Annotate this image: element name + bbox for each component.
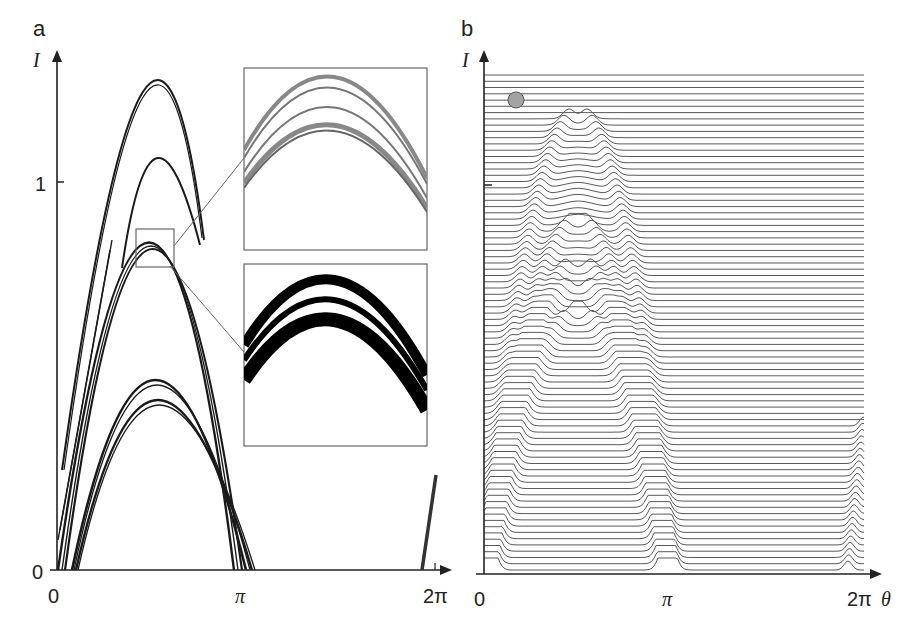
panel-a-inset-binary — [244, 264, 427, 446]
panel-a-y-tick-0-label: 0 — [32, 561, 43, 583]
panel-a-x-tick-pi-label: π — [235, 585, 246, 607]
panel-b-x-axis-arrow-icon — [870, 569, 882, 579]
waterfall-trace — [484, 166, 864, 175]
panel-b-x-axis-label: θ — [881, 588, 891, 610]
panel-a-label: a — [33, 16, 46, 41]
panel-b-x-tick-pi-label: π — [662, 588, 673, 610]
waterfall-trace — [484, 284, 864, 295]
panel-b-y-axis-label: I — [461, 49, 470, 71]
waterfall-trace — [484, 278, 864, 288]
waterfall-trace — [484, 122, 864, 132]
panel-b-x-tick-0-label: 0 — [474, 588, 485, 610]
figure: a I 0 1 0 π 2π — [0, 0, 913, 625]
waterfall-trace — [484, 172, 864, 181]
panel-a: a I 0 1 0 π 2π — [32, 16, 452, 607]
panel-b-label: b — [461, 16, 473, 41]
panel-a-zoom-region-box — [136, 229, 174, 267]
waterfall-trace — [484, 227, 864, 238]
panel-a-y-axis-label: I — [32, 49, 41, 71]
waterfall-trace — [484, 198, 864, 207]
waterfall-trace — [484, 210, 864, 219]
panel-b-x-tick-2pi-label: 2π — [847, 588, 872, 610]
waterfall-trace — [484, 266, 864, 276]
panel-a-inset-grayscale — [244, 68, 427, 250]
waterfall-trace — [484, 115, 864, 125]
panel-a-connector-top — [174, 158, 244, 246]
panel-a-y-axis-arrow-icon — [52, 50, 62, 62]
waterfall-trace — [484, 141, 864, 151]
waterfall-trace — [484, 234, 864, 244]
waterfall-trace — [484, 241, 864, 251]
panel-b-marker-circle — [508, 92, 524, 108]
waterfall-trace — [484, 204, 864, 213]
panel-b: b I 0 π 2π θ — [461, 16, 891, 610]
panel-b-y-axis-arrow-icon — [479, 50, 489, 62]
waterfall-trace — [484, 153, 864, 162]
waterfall-trace — [484, 259, 864, 269]
waterfall-trace — [484, 272, 864, 281]
waterfall-trace — [484, 191, 864, 200]
panel-a-x-tick-0-label: 0 — [48, 585, 59, 607]
waterfall-trace — [484, 179, 864, 188]
panel-a-y-tick-1-label: 1 — [35, 173, 46, 195]
panel-a-x-axis-arrow-icon — [440, 565, 452, 575]
waterfall-trace — [484, 109, 864, 119]
panel-a-connector-bottom — [170, 266, 244, 352]
waterfall-trace — [484, 134, 864, 144]
panel-a-x-tick-2pi-label: 2π — [423, 585, 448, 607]
panel-b-waterfall-traces — [484, 75, 864, 570]
waterfall-trace — [484, 128, 864, 138]
